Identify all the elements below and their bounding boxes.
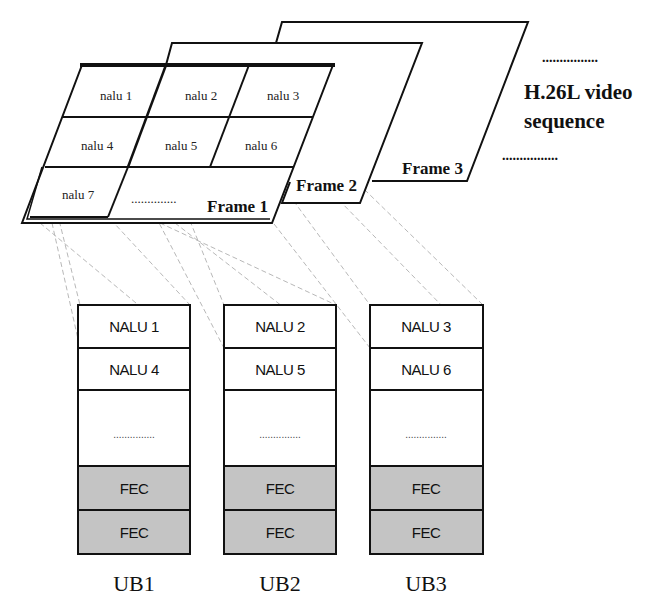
sequence-label: ................ H.26L video sequence ..…	[502, 50, 633, 163]
diagram-canvas: Frame 3 Frame 2 nalu 1 nalu 2 nalu 3 nal…	[0, 0, 652, 616]
ub3-row-nalu-6: NALU 6	[401, 361, 451, 378]
ub1-row-nalu-4: NALU 4	[109, 361, 159, 378]
ub1-row-fec-1: FEC	[120, 480, 149, 497]
sequence-dots-top: ................	[542, 50, 598, 65]
frame1-cell-nalu-6: nalu 6	[245, 138, 278, 153]
frame1-cell-nalu-2: nalu 2	[185, 88, 217, 103]
ub1-row-nalu-1: NALU 1	[109, 318, 159, 335]
frame1-cell-nalu-5: nalu 5	[165, 138, 197, 153]
ub2-row-fec-2: FEC	[266, 524, 295, 541]
ub-block-2: NALU 2 NALU 5 ............... FEC FEC UB…	[224, 305, 336, 596]
ub2-row-fec-1: FEC	[266, 480, 295, 497]
ub-block-3: NALU 3 NALU 6 ............... FEC FEC UB…	[370, 305, 483, 596]
ub3-row-fec-1: FEC	[412, 480, 441, 497]
frame1-ellipsis: ..............	[131, 191, 177, 206]
frame1-cell-nalu-4: nalu 4	[81, 138, 114, 153]
sequence-dots-bottom: ................	[502, 148, 558, 163]
frame-1-label: Frame 1	[207, 197, 268, 216]
frame1-cell-nalu-1: nalu 1	[100, 88, 132, 103]
ub1-row-fec-2: FEC	[120, 524, 149, 541]
frame-2-label: Frame 2	[296, 176, 357, 195]
ub2-row-nalu-2: NALU 2	[255, 318, 305, 335]
ub2-row-nalu-5: NALU 5	[255, 361, 305, 378]
ub3-row-ellipsis: ...............	[405, 429, 447, 440]
sequence-title-line1: H.26L video	[524, 80, 633, 104]
ub-block-1: NALU 1 NALU 4 ............... FEC FEC UB…	[78, 305, 190, 596]
ub1-label: UB1	[113, 571, 155, 596]
ub3-row-nalu-3: NALU 3	[401, 318, 451, 335]
ub2-row-ellipsis: ...............	[259, 429, 301, 440]
frame-3-label: Frame 3	[402, 159, 463, 178]
frame1-cell-nalu-7: nalu 7	[62, 187, 95, 202]
ub3-row-fec-2: FEC	[412, 524, 441, 541]
ub1-row-ellipsis: ...............	[113, 429, 155, 440]
ub3-label: UB3	[405, 571, 447, 596]
frame1-cell-nalu-3: nalu 3	[267, 88, 299, 103]
sequence-title-line2: sequence	[524, 109, 605, 133]
ub2-label: UB2	[259, 571, 301, 596]
